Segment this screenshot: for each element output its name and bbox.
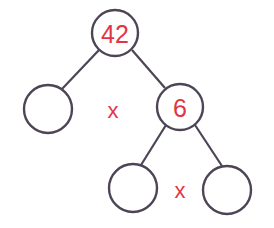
node-left: [24, 85, 72, 133]
node-root-label: 42: [101, 20, 129, 48]
node-right-left: [109, 164, 157, 212]
multiply-operator: x: [108, 98, 119, 123]
node-right-label: 6: [173, 94, 187, 122]
edge-right-rightright: [195, 125, 222, 166]
edge-root-left: [62, 50, 99, 89]
edge-root-right: [132, 50, 165, 88]
factor-tree-diagram: 42 6 x x: [0, 0, 274, 228]
multiply-operator: x: [175, 178, 186, 203]
node-right-right: [203, 166, 251, 214]
edge-right-rightleft: [141, 125, 166, 165]
